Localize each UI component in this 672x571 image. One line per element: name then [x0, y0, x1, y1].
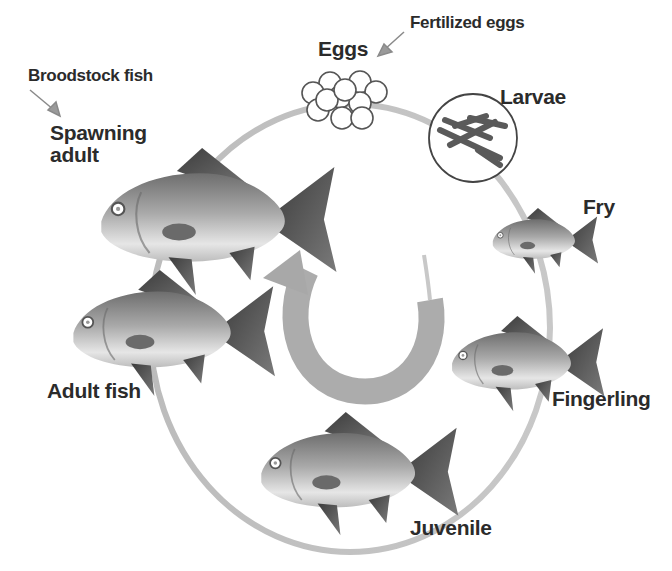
- spawning-adult-label-line2: adult: [50, 144, 147, 166]
- broodstock-fish-label: Broodstock fish: [28, 67, 153, 85]
- broodstock-arrow-icon: [30, 90, 60, 116]
- fertilized-arrow-icon: [378, 32, 404, 56]
- diagram-artwork: [0, 0, 672, 571]
- eggs-label: Eggs: [318, 38, 368, 60]
- fish-life-cycle-diagram: Fertilized eggs Eggs Broodstock fish Spa…: [0, 0, 672, 571]
- eggs-icon: [302, 71, 387, 129]
- juvenile-label: Juvenile: [410, 517, 492, 539]
- larvae-label: Larvae: [500, 86, 566, 108]
- cycle-direction-arrow-icon: [263, 250, 432, 392]
- spawning-adult-label: Spawning adult: [50, 122, 147, 166]
- adult-fish: [73, 270, 275, 396]
- fry-label: Fry: [583, 196, 615, 218]
- fingerling-label: Fingerling: [552, 388, 651, 410]
- fertilized-eggs-label: Fertilized eggs: [410, 14, 525, 32]
- spawning-adult-label-line1: Spawning: [50, 122, 147, 144]
- adult-fish-label: Adult fish: [47, 380, 141, 402]
